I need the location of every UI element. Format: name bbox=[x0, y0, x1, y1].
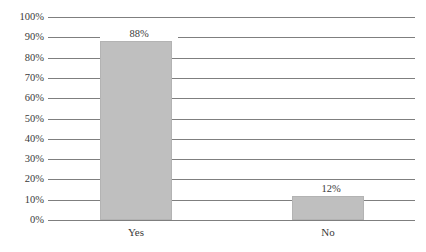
bar-no[interactable] bbox=[292, 196, 364, 220]
y-axis-tick-label: 10% bbox=[0, 195, 44, 206]
y-axis-tick-label: 70% bbox=[0, 73, 44, 84]
y-axis-tick-label: 40% bbox=[0, 134, 44, 145]
y-axis-tick-label: 30% bbox=[0, 154, 44, 165]
x-axis-category-label-no: No bbox=[292, 226, 364, 238]
y-axis-tick-label: 50% bbox=[0, 114, 44, 125]
y-axis-tick-label: 100% bbox=[0, 12, 44, 23]
y-axis-tick-label: 20% bbox=[0, 174, 44, 185]
y-axis-tick-label: 60% bbox=[0, 93, 44, 104]
x-axis-category-label-yes: Yes bbox=[100, 226, 172, 238]
bar-value-label-no: 12% bbox=[292, 183, 370, 194]
bar-yes[interactable] bbox=[100, 41, 172, 220]
bar-value-label-yes: 88% bbox=[100, 28, 178, 39]
y-axis: 100% 90% 80% 70% 60% 50% 40% 30% 20% 10%… bbox=[0, 17, 44, 220]
y-axis-tick-label: 80% bbox=[0, 53, 44, 64]
y-axis-tick-label: 90% bbox=[0, 32, 44, 43]
y-axis-tick-label: 0% bbox=[0, 215, 44, 226]
bar-chart: 100% 90% 80% 70% 60% 50% 40% 30% 20% 10%… bbox=[0, 0, 426, 252]
baseline-gridline bbox=[48, 220, 415, 221]
gridline bbox=[48, 17, 415, 18]
